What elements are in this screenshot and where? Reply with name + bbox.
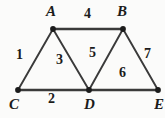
vertex-dot-a xyxy=(50,26,56,32)
graph-figure: A B C D E 1 2 3 4 5 6 7 xyxy=(0,0,165,118)
edge-label-6: 6 xyxy=(119,66,126,80)
edge-line-1 xyxy=(18,29,53,90)
vertex-dots xyxy=(15,26,161,93)
edge-label-7: 7 xyxy=(144,47,151,61)
vertex-dot-c xyxy=(15,87,21,93)
vertex-label-c: C xyxy=(9,97,19,112)
edge-label-1: 1 xyxy=(16,48,23,62)
vertex-dot-b xyxy=(120,26,126,32)
edge-label-2: 2 xyxy=(48,92,55,106)
graph-canvas xyxy=(0,0,165,118)
edge-label-3: 3 xyxy=(56,53,63,67)
vertex-label-a: A xyxy=(46,4,56,19)
vertex-dot-d xyxy=(86,87,92,93)
edge-lines xyxy=(18,29,158,90)
vertex-label-e: E xyxy=(154,97,164,112)
vertex-label-b: B xyxy=(117,4,127,19)
vertex-label-d: D xyxy=(84,97,95,112)
edge-label-4: 4 xyxy=(84,7,91,21)
vertex-dot-e xyxy=(155,87,161,93)
edge-line-7 xyxy=(123,29,158,90)
edge-label-5: 5 xyxy=(89,46,96,60)
